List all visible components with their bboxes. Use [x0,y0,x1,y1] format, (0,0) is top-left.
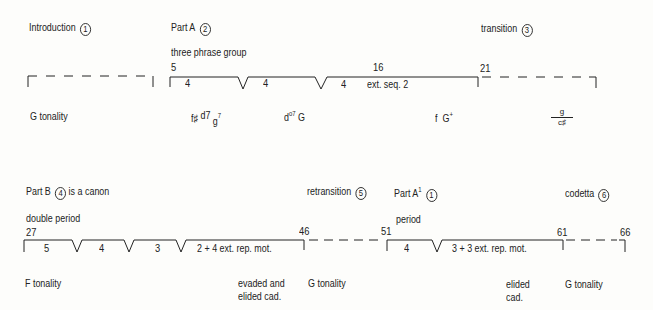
section-label-part-a: Part A2 [171,22,211,36]
section-number: 1 [80,23,91,36]
harmony-chord: f♯ d7 g7 [191,110,221,127]
harmony-fraction: g c♯ [551,108,573,127]
form-diagram-brackets [0,0,653,310]
phrase-group-label: three phrase group [171,47,246,58]
phrase-group-label: double period [26,213,80,224]
phrase-length: 4 [404,243,409,254]
phrase-length: 4 [341,79,346,90]
phrase-length: 3 [155,243,160,254]
measure-number: 51 [381,226,391,237]
section-number: 4 [55,187,66,200]
measure-number: 21 [480,63,490,74]
measure-number: 61 [557,227,567,238]
harmony-chord: f G+ [435,111,453,123]
tonality-label: G tonality [308,278,346,289]
measure-number: 27 [26,227,36,238]
section-number: 3 [521,24,532,37]
cadence-label: elidedcad. [506,279,530,302]
section-number: 1 [426,189,437,202]
section-number: 2 [200,23,211,36]
phrase-extension: 3 + 3 ext. rep. mot. [452,243,527,254]
section-label-part-b: Part B4 is a canon [26,186,109,200]
cadence-label: evaded andelided cad. [238,278,285,301]
phrase-group-label: period [396,214,421,225]
section-label-transition: transition3 [481,23,533,37]
section-label-part-a1: Part A11 [394,186,437,202]
section-number: 5 [355,187,366,200]
phrase-length: 4 [99,243,104,254]
section-number: 6 [599,189,610,202]
measure-number: 16 [373,62,383,73]
measure-number: 5 [171,62,176,73]
phrase-extension: 2 + 4 ext. rep. mot. [197,243,272,254]
tonality-label: G tonality [30,111,68,122]
measure-number: 46 [299,226,309,237]
section-label-codetta: codetta6 [565,188,610,202]
tonality-label: F tonality [25,278,61,289]
harmony-chord: do7 G [284,110,305,122]
phrase-length: 4 [185,78,190,89]
section-label-retransition: retransition5 [307,186,366,200]
phrase-length: 5 [44,243,49,254]
tonality-label: G tonality [565,279,603,290]
phrase-length: 4 [263,78,268,89]
measure-number: 66 [620,227,630,238]
section-label-introduction: Introduction1 [29,22,91,36]
phrase-extension: ext. seq. 2 [367,79,408,90]
